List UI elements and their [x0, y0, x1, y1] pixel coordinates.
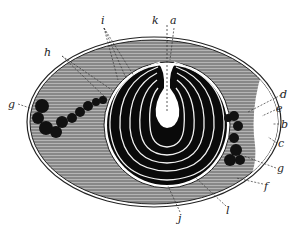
- label-i: i: [101, 14, 105, 27]
- label-k: k: [152, 14, 159, 27]
- label-g-left: g: [8, 98, 15, 111]
- label-g-right: g: [277, 162, 284, 175]
- label-f: f: [263, 180, 270, 193]
- label-d: d: [280, 88, 287, 101]
- label-j: j: [175, 212, 182, 225]
- label-b: b: [281, 118, 288, 131]
- label-c: c: [278, 137, 284, 150]
- label-e: e: [276, 102, 283, 115]
- label-l: l: [226, 204, 230, 217]
- label-h: h: [44, 46, 51, 59]
- cross-section-diagram: i k a h g d e b c g f l j: [0, 0, 296, 234]
- label-a: a: [170, 14, 177, 27]
